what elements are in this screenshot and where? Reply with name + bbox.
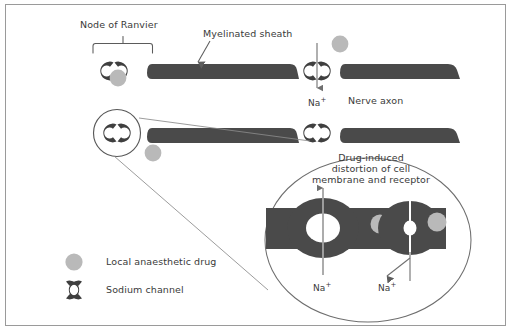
inset-title-line-2: distortion of cell [332,163,411,174]
charge-superscript: + [390,281,396,289]
legend-sodium-channel-icon [66,281,82,300]
charge-superscript: + [325,281,331,289]
figure-root: Node of Ranvier Myelinated sheath Nerve … [0,0,511,331]
legend-drug-circle-icon [65,253,82,270]
label-inset-sodium-right: Na+ [378,280,396,294]
sodium-channel-node-3 [103,124,130,143]
label-inset-sodium-left: Na+ [313,280,331,294]
node-of-ranvier-bracket [93,37,153,54]
legend-label-local-anaesthetic-drug: Local anaesthetic drug [106,256,217,267]
local-anaesthetic-drug-icon [428,213,447,232]
inset-title-line-1: Drug-induced [338,152,404,163]
local-anaesthetic-drug-icon [145,145,162,162]
sodium-channel-node-4 [303,124,330,143]
legend-label-sodium-channel: Sodium channel [106,284,184,295]
inset-title-line-3: membrane and receptor [312,174,430,185]
inset-sodium-blocked-arrow [387,252,410,281]
charge-superscript: + [320,96,326,104]
local-anaesthetic-drug-icon [332,36,349,53]
axon-row-normal [100,36,460,88]
label-myelinated-sheath: Myelinated sheath [203,28,293,39]
label-inset-title: Drug-induced distortion of cell membrane… [297,152,445,185]
label-nerve-axon: Nerve axon [348,95,403,106]
magnifier-circle [94,110,141,157]
label-node-of-ranvier: Node of Ranvier [80,19,158,30]
myelin-sheath-segment [147,128,299,143]
myelin-sheath-segment [147,64,299,79]
myelin-sheath-segment [340,64,460,79]
local-anaesthetic-drug-icon [110,70,127,87]
label-sodium-ion-top: Na+ [308,95,326,109]
legend [65,253,82,299]
myelin-sheath-segment [340,128,460,143]
myelinated-sheath-pointer [198,41,210,62]
